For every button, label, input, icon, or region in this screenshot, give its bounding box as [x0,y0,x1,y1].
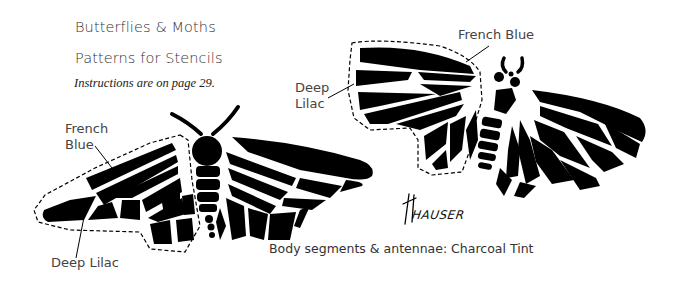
right-french-blue-label: French Blue [458,27,534,43]
right-deep-lilac-label: Deep Lilac [295,80,329,112]
left-french-blue-label-line2: Blue [65,137,108,153]
artist-signature: HAUSER [411,208,466,222]
right-deep-lilac-label-line1: Deep [295,80,329,96]
right-deep-lilac-label-line2: Lilac [295,96,329,112]
left-french-blue-label-line1: French [65,121,108,137]
left-french-blue-label: French Blue [65,121,108,153]
color-caption: Body segments & antennae: Charcoal Tint [269,241,533,256]
right-moth-illustration [328,41,646,198]
left-deep-lilac-label: Deep Lilac [51,255,119,271]
